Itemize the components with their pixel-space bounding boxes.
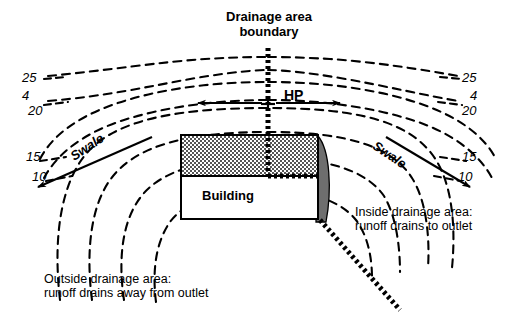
contour-label-left-10: 10 — [32, 170, 46, 185]
high-point-label: HP — [284, 88, 303, 104]
outside-drainage-note: Outside drainage area: runoff drains awa… — [44, 272, 208, 300]
contour-label-right-20: 20 — [462, 104, 476, 119]
building-shape — [181, 135, 329, 222]
contour-label-left-20: 20 — [28, 104, 42, 119]
contour-label-right-15: 15 — [462, 150, 476, 165]
building-label: Building — [202, 189, 254, 204]
contour-label-right-25: 25 — [462, 71, 476, 86]
contour-label-left-15: 15 — [26, 150, 40, 165]
drainage-boundary-title: Drainage area boundary — [214, 10, 324, 39]
contour-label-right-4: 4 — [470, 89, 477, 104]
contour-label-left-4: 4 — [22, 89, 29, 104]
drainage-boundary-outlet — [320, 220, 400, 310]
contour-label-right-10: 10 — [458, 170, 472, 185]
contour-label-left-25: 25 — [22, 71, 36, 86]
inside-drainage-note: Inside drainage area: runoff drains to o… — [355, 205, 472, 233]
drainage-diagram: Drainage area boundary HP Building Swale… — [0, 0, 506, 322]
